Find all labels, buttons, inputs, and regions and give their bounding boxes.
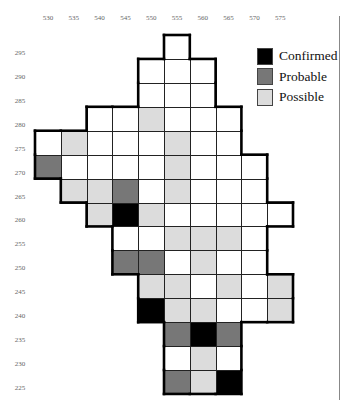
legend-label-possible: Possible [279, 89, 324, 105]
legend-item-confirmed: Confirmed [257, 46, 338, 67]
confirmed-swatch-icon [257, 48, 273, 65]
legend: Confirmed Probable Possible [257, 46, 338, 108]
possible-swatch-icon [257, 89, 273, 106]
legend-item-possible: Possible [257, 87, 338, 108]
legend-label-probable: Probable [279, 69, 327, 85]
probable-swatch-icon [257, 68, 273, 85]
breeding-grid-chart: 530535540545550555560565570575 295290285… [0, 0, 350, 406]
legend-label-confirmed: Confirmed [279, 48, 338, 64]
legend-item-probable: Probable [257, 67, 338, 88]
right-divider [339, 16, 340, 400]
